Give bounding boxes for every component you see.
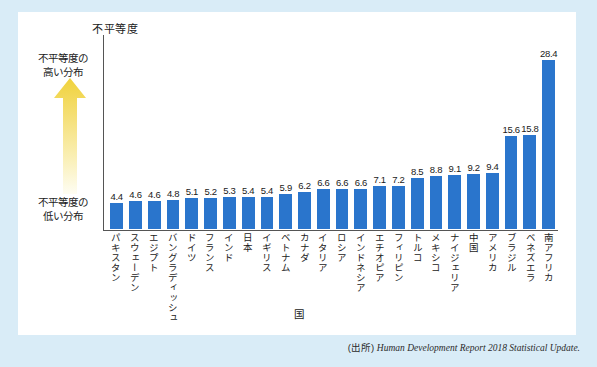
category-slot: ドイツ bbox=[181, 233, 200, 301]
bar-slot[interactable]: 9.2 bbox=[464, 35, 483, 229]
category-label: エチオピア bbox=[374, 233, 384, 283]
bar-slot[interactable]: 6.6 bbox=[351, 35, 370, 229]
bar-rect[interactable] bbox=[505, 136, 518, 229]
bar-value-label: 6.2 bbox=[298, 180, 310, 191]
annotation-high-inequality: 不平等度の 高い分布 bbox=[24, 52, 102, 79]
category-slot: エチオピア bbox=[370, 233, 389, 301]
bar-slot[interactable]: 6.6 bbox=[333, 35, 352, 229]
annotation-low-inequality: 不平等度の 低い分布 bbox=[24, 196, 102, 223]
category-slot: メキシコ bbox=[426, 233, 445, 301]
category-slot: トルコ bbox=[407, 233, 426, 301]
bar-rect[interactable] bbox=[261, 197, 274, 229]
bar-slot[interactable]: 28.4 bbox=[539, 35, 558, 229]
bar-slot[interactable]: 5.4 bbox=[239, 35, 258, 229]
annotation-high-line1: 不平等度の bbox=[24, 52, 102, 66]
bar-value-label: 6.6 bbox=[355, 177, 367, 188]
bar-slot[interactable]: 15.6 bbox=[502, 35, 521, 229]
category-label: 中国 bbox=[468, 233, 478, 253]
bar-slot[interactable]: 5.3 bbox=[220, 35, 239, 229]
category-slot: カナダ bbox=[294, 233, 313, 301]
y-axis-title: 不平等度 bbox=[70, 20, 160, 36]
bar-slot[interactable]: 4.4 bbox=[107, 35, 126, 229]
bar-slot[interactable]: 4.8 bbox=[164, 35, 183, 229]
bar-value-label: 5.3 bbox=[223, 185, 235, 196]
bar-rect[interactable] bbox=[542, 60, 555, 229]
source-prefix: (出所) bbox=[348, 342, 377, 353]
category-slot: エジプト bbox=[144, 233, 163, 301]
bar-slot[interactable]: 9.4 bbox=[483, 35, 502, 229]
up-arrow-icon bbox=[52, 78, 88, 194]
bar-slot[interactable]: 15.8 bbox=[520, 35, 539, 229]
category-slot: フィリピン bbox=[388, 233, 407, 301]
category-slot: 中国 bbox=[464, 233, 483, 301]
category-label: ナイジェリア bbox=[449, 233, 459, 293]
bar-rect[interactable] bbox=[523, 135, 536, 229]
bar-rect[interactable] bbox=[317, 189, 330, 228]
bar-slot[interactable]: 4.6 bbox=[145, 35, 164, 229]
bar-rect[interactable] bbox=[430, 176, 443, 228]
bar-value-label: 5.4 bbox=[242, 185, 254, 196]
x-axis-category-labels: パキスタンスウェーデンエジプトバングラディッシュドイツフランスインド日本イギリス… bbox=[104, 233, 558, 301]
bar-slot[interactable]: 9.1 bbox=[445, 35, 464, 229]
bar-rect[interactable] bbox=[223, 197, 236, 229]
bar-rect[interactable] bbox=[392, 186, 405, 229]
bar-value-label: 5.9 bbox=[280, 182, 292, 193]
bar-rect[interactable] bbox=[467, 174, 480, 229]
bar-slot[interactable]: 4.6 bbox=[126, 35, 145, 229]
bar-value-label: 7.1 bbox=[373, 174, 385, 185]
bar-slot[interactable]: 8.5 bbox=[408, 35, 427, 229]
bar-slot[interactable]: 5.4 bbox=[258, 35, 277, 229]
category-label: アメリカ bbox=[487, 233, 497, 273]
bar-rect[interactable] bbox=[279, 194, 292, 229]
bar-slot[interactable]: 5.9 bbox=[276, 35, 295, 229]
category-label: 日本 bbox=[242, 233, 252, 253]
bar-rect[interactable] bbox=[148, 201, 161, 228]
category-slot: ベネズエラ bbox=[520, 233, 539, 301]
category-slot: イタリア bbox=[313, 233, 332, 301]
bar-value-label: 4.6 bbox=[129, 189, 141, 200]
bar-slot[interactable]: 7.2 bbox=[389, 35, 408, 229]
bar-value-label: 28.4 bbox=[540, 48, 557, 59]
bar-rect[interactable] bbox=[298, 192, 311, 229]
bar-value-label: 5.2 bbox=[204, 186, 216, 197]
bar-rect[interactable] bbox=[110, 203, 123, 229]
bar-rect[interactable] bbox=[167, 200, 180, 229]
bar-rect[interactable] bbox=[486, 173, 499, 229]
bar-rect[interactable] bbox=[129, 201, 142, 228]
category-label: 南アフリカ bbox=[544, 233, 554, 283]
bar-rect[interactable] bbox=[336, 189, 349, 228]
bar-value-label: 4.6 bbox=[148, 189, 160, 200]
category-slot: ベトナム bbox=[275, 233, 294, 301]
category-slot: インドネシア bbox=[351, 233, 370, 301]
annotation-low-line2: 低い分布 bbox=[24, 210, 102, 224]
bar-slot[interactable]: 6.6 bbox=[314, 35, 333, 229]
bar-slot[interactable]: 5.2 bbox=[201, 35, 220, 229]
category-label: ロシア bbox=[336, 233, 346, 263]
bar-rect[interactable] bbox=[373, 186, 386, 228]
bar-slot[interactable]: 6.2 bbox=[295, 35, 314, 229]
bar-value-label: 6.6 bbox=[317, 177, 329, 188]
bar-slot[interactable]: 7.1 bbox=[370, 35, 389, 229]
category-label: エジプト bbox=[148, 233, 158, 273]
category-label: イギリス bbox=[261, 233, 271, 273]
bar-rect[interactable] bbox=[448, 175, 461, 229]
bar-value-label: 5.4 bbox=[261, 185, 273, 196]
plot-area: 4.44.64.64.85.15.25.35.45.45.96.26.66.66… bbox=[103, 35, 558, 231]
category-slot: ブラジル bbox=[501, 233, 520, 301]
bar-value-label: 9.2 bbox=[467, 162, 479, 173]
source-note: (出所) Human Development Report 2018 Stati… bbox=[0, 340, 580, 354]
bar-value-label: 15.8 bbox=[521, 123, 538, 134]
category-label: ベトナム bbox=[280, 233, 290, 273]
category-label: ブラジル bbox=[506, 233, 516, 273]
category-slot: イギリス bbox=[257, 233, 276, 301]
bar-rect[interactable] bbox=[242, 197, 255, 229]
bar-value-label: 15.6 bbox=[502, 124, 519, 135]
bars-container: 4.44.64.64.85.15.25.35.45.45.96.26.66.66… bbox=[105, 35, 558, 229]
bar-rect[interactable] bbox=[204, 198, 217, 229]
bar-rect[interactable] bbox=[354, 189, 367, 228]
bar-slot[interactable]: 8.8 bbox=[427, 35, 446, 229]
bar-rect[interactable] bbox=[411, 178, 424, 229]
category-slot: パキスタン bbox=[106, 233, 125, 301]
bar-rect[interactable] bbox=[185, 198, 198, 228]
bar-slot[interactable]: 5.1 bbox=[182, 35, 201, 229]
